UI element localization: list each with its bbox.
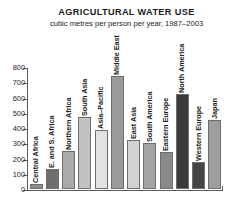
bar-series: Central AfricaE. and S. AfricaNorthern A… [28, 67, 223, 189]
bar-slot: North America [174, 67, 190, 189]
bar-slot: Western Europe [191, 67, 207, 189]
bar[interactable]: South America [143, 143, 156, 189]
bar-label: Northern Africa [64, 97, 73, 150]
bar-label: North America [178, 44, 187, 93]
bar[interactable]: Middle East [111, 76, 124, 189]
bar[interactable]: Central Africa [30, 184, 43, 189]
bar-label: East Asia [129, 107, 138, 139]
bar-label: Japan [210, 99, 219, 120]
bar-label: Western Europe [194, 105, 203, 160]
bar[interactable]: Western Europe [192, 162, 205, 189]
x-axis-line [27, 190, 223, 191]
bar-slot: Northern Africa [61, 67, 77, 189]
bar[interactable]: Japan [208, 120, 221, 189]
bar[interactable]: North America [176, 94, 189, 189]
bar-label: Middle East [113, 35, 122, 75]
y-tick-label: 100 [13, 170, 25, 179]
y-tick-label: 500 [13, 109, 25, 118]
bar-slot: Eastern Europe [158, 67, 174, 189]
bar[interactable]: E. and S. Africa [46, 169, 59, 189]
bar-slot: Central Africa [28, 67, 44, 189]
bar-slot: Asia–Pacific [93, 67, 109, 189]
bar-label: Asia–Pacific [96, 86, 105, 128]
bar-label: South America [145, 92, 154, 143]
bar-slot: South America [142, 67, 158, 189]
y-tick-label: 600 [13, 94, 25, 103]
chart-title-block: AGRICULTURAL WATER USE cubic metres per … [0, 7, 227, 29]
bar[interactable]: South Asia [78, 117, 91, 189]
y-tick-label: 0 [21, 185, 25, 194]
y-tick-label: 700 [13, 78, 25, 87]
bar[interactable]: Eastern Europe [160, 152, 173, 189]
bar[interactable]: East Asia [127, 140, 140, 189]
bar-label: E. and S. Africa [48, 116, 57, 168]
y-tick-label: 200 [13, 155, 25, 164]
y-tick-label: 400 [13, 124, 25, 133]
bar-label: South Asia [80, 79, 89, 116]
plot-area: 0100200300400500600700800 Central Africa… [27, 68, 223, 190]
chart-figure: AGRICULTURAL WATER USE cubic metres per … [0, 0, 227, 211]
y-tick-label: 300 [13, 139, 25, 148]
bar-slot: E. and S. Africa [44, 67, 60, 189]
bar-slot: South Asia [77, 67, 93, 189]
bar[interactable]: Asia–Pacific [95, 130, 108, 189]
chart-subtitle: cubic metres per person per year, 1987–2… [0, 19, 227, 29]
y-tick-label: 800 [13, 63, 25, 72]
chart-title: AGRICULTURAL WATER USE [0, 7, 227, 18]
bar-label: Eastern Europe [161, 98, 170, 151]
bar[interactable]: Northern Africa [62, 151, 75, 189]
bar-label: Central Africa [31, 137, 40, 184]
bar-slot: Middle East [109, 67, 125, 189]
bar-slot: East Asia [126, 67, 142, 189]
bar-slot: Japan [207, 67, 223, 189]
